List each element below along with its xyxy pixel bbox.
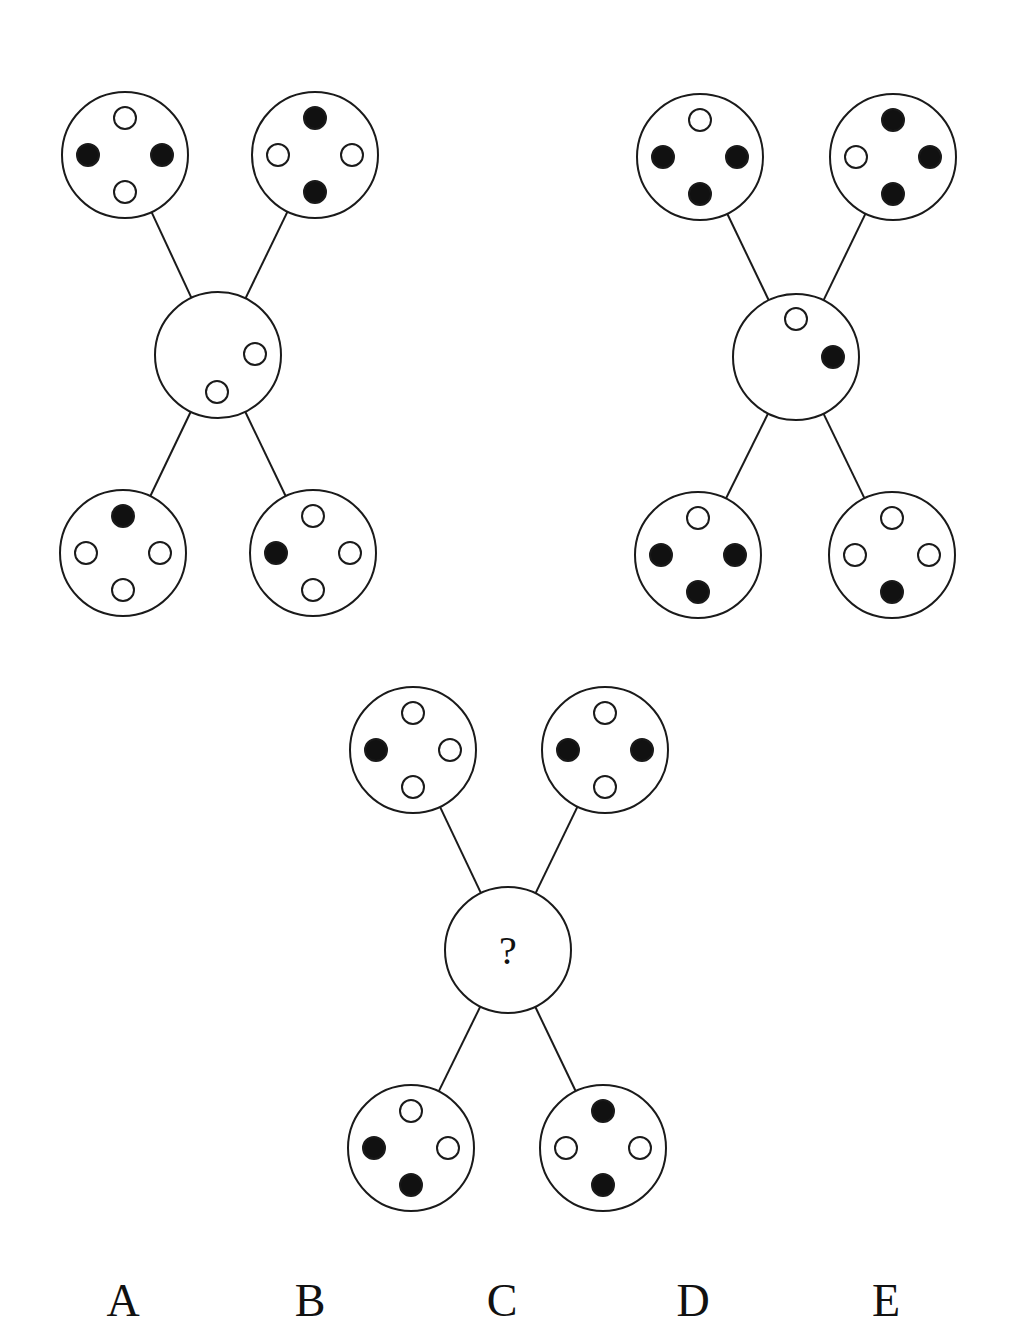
filled-dot-bottom xyxy=(882,183,904,205)
empty-dot-bottom xyxy=(302,579,324,601)
connector-line xyxy=(535,1007,575,1091)
outer-circle-bottom-right xyxy=(540,1085,666,1211)
empty-dot-right xyxy=(629,1137,651,1159)
empty-dot-bottom xyxy=(402,776,424,798)
empty-dot-right xyxy=(149,542,171,564)
filled-dot-bottom xyxy=(687,581,709,603)
center-circle: ? xyxy=(445,887,571,1013)
empty-dot-right xyxy=(341,144,363,166)
empty-dot-right xyxy=(439,739,461,761)
empty-dot xyxy=(206,381,228,403)
filled-dot-top xyxy=(882,109,904,131)
empty-dot-right xyxy=(339,542,361,564)
outer-circle-top-left xyxy=(350,687,476,813)
puzzle-canvas: ? xyxy=(0,0,1011,1335)
connector-line xyxy=(152,212,192,298)
empty-dot-left xyxy=(844,544,866,566)
option-b[interactable]: B xyxy=(295,1278,326,1324)
outer-circle-bottom-left xyxy=(60,490,186,616)
connector-line xyxy=(245,412,285,496)
empty-dot-left xyxy=(267,144,289,166)
outer-circle-top-right xyxy=(542,687,668,813)
empty-dot-top xyxy=(402,702,424,724)
connector-line xyxy=(726,413,768,498)
outer-circle-top-right xyxy=(252,92,378,218)
filled-dot-left xyxy=(77,144,99,166)
question-mark: ? xyxy=(499,928,517,973)
figure-2 xyxy=(635,94,956,618)
option-a[interactable]: A xyxy=(106,1278,139,1324)
figure-3: ? xyxy=(348,687,668,1211)
filled-dot-right xyxy=(631,739,653,761)
empty-dot-right xyxy=(437,1137,459,1159)
filled-dot-right xyxy=(726,146,748,168)
center-circle xyxy=(733,294,859,420)
connector-line xyxy=(440,807,481,893)
filled-dot-top xyxy=(112,505,134,527)
connector-line xyxy=(150,412,190,496)
empty-dot-left xyxy=(845,146,867,168)
filled-dot-bottom xyxy=(400,1174,422,1196)
outer-circle-bottom-left xyxy=(635,492,761,618)
empty-dot-top xyxy=(881,507,903,529)
filled-dot-right xyxy=(724,544,746,566)
option-e[interactable]: E xyxy=(872,1278,900,1324)
empty-dot-top xyxy=(400,1100,422,1122)
filled-dot-left xyxy=(650,544,672,566)
empty-dot-bottom xyxy=(594,776,616,798)
connector-line xyxy=(439,1007,481,1092)
outer-circle-bottom-right xyxy=(829,492,955,618)
filled-dot-bottom xyxy=(304,181,326,203)
outer-circle-top-right xyxy=(830,94,956,220)
option-c[interactable]: C xyxy=(487,1278,518,1324)
outer-circle-bottom-right xyxy=(250,490,376,616)
filled-dot-left xyxy=(363,1137,385,1159)
filled-dot-top xyxy=(592,1100,614,1122)
filled-dot-bottom xyxy=(881,581,903,603)
empty-dot-top xyxy=(687,507,709,529)
empty-dot-bottom xyxy=(112,579,134,601)
filled-dot-left xyxy=(557,739,579,761)
empty-dot xyxy=(785,308,807,330)
empty-dot-top xyxy=(302,505,324,527)
empty-dot-top xyxy=(689,109,711,131)
empty-dot-top xyxy=(114,107,136,129)
center-circle xyxy=(155,292,281,418)
filled-dot-bottom xyxy=(689,183,711,205)
figure-1 xyxy=(60,92,378,616)
empty-dot-right xyxy=(918,544,940,566)
connector-line xyxy=(245,212,287,299)
filled-dot-top xyxy=(304,107,326,129)
outer-circle-top-left xyxy=(62,92,188,218)
outer-circle-top-left xyxy=(637,94,763,220)
connector-line xyxy=(535,807,577,894)
empty-dot-left xyxy=(555,1137,577,1159)
option-d[interactable]: D xyxy=(676,1278,709,1324)
filled-dot-left xyxy=(652,146,674,168)
connector-line xyxy=(727,214,768,300)
connector-line xyxy=(823,414,864,499)
empty-dot-left xyxy=(75,542,97,564)
filled-dot-left xyxy=(365,739,387,761)
empty-dot-top xyxy=(594,702,616,724)
empty-dot-bottom xyxy=(114,181,136,203)
filled-dot-right xyxy=(919,146,941,168)
filled-dot-right xyxy=(151,144,173,166)
empty-dot xyxy=(244,343,266,365)
filled-dot-left xyxy=(265,542,287,564)
filled-dot xyxy=(822,346,844,368)
filled-dot-bottom xyxy=(592,1174,614,1196)
outer-circle-bottom-left xyxy=(348,1085,474,1211)
connector-line xyxy=(823,214,865,301)
